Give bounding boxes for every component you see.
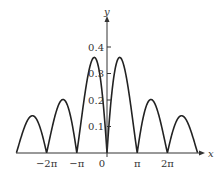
- x-tick-label: −2π: [36, 158, 58, 169]
- x-axis-arrow-icon: [199, 151, 205, 156]
- x-axis-label: x: [208, 148, 214, 159]
- x-tick-label: 0: [99, 158, 105, 169]
- y-tick-label: 0.1: [88, 121, 104, 132]
- y-tick-label: 0.2: [88, 95, 104, 106]
- y-ticks: 0.10.20.30.4: [88, 42, 111, 133]
- x-tick-label: −π: [69, 158, 84, 169]
- x-tick-label: 2π: [161, 158, 174, 169]
- x-tick-label: π: [134, 158, 141, 169]
- y-tick-label: 0.4: [88, 42, 104, 53]
- y-axis-label: y: [103, 6, 110, 17]
- y-tick-label: 0.3: [88, 68, 104, 79]
- chart: x y −2π−π0π2π 0.10.20.30.4: [0, 0, 223, 170]
- x-ticks: −2π−π0π2π: [36, 158, 174, 169]
